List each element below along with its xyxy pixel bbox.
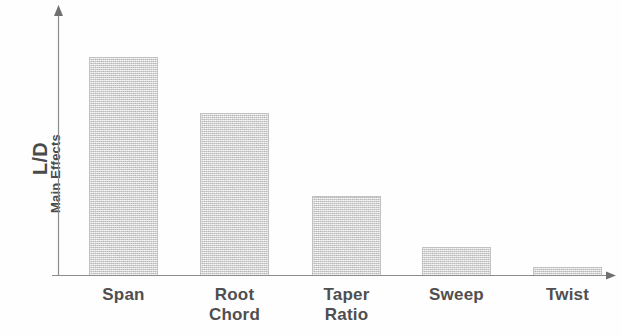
x-label-sweep: Sweep bbox=[422, 285, 491, 305]
bar-span bbox=[89, 57, 158, 275]
x-label-span: Span bbox=[89, 285, 158, 305]
x-label-taper-ratio-line1: Taper bbox=[323, 285, 369, 304]
x-label-root-chord-line1: Root bbox=[215, 285, 255, 304]
x-label-twist: Twist bbox=[533, 285, 602, 305]
bar-chart: L/D Main Effects Span Root Chord Taper bbox=[0, 0, 622, 336]
x-axis-category-labels: Span Root Chord Taper Ratio Sweep Twist bbox=[0, 275, 622, 336]
x-label-taper-ratio-line2: Ratio bbox=[312, 305, 381, 325]
x-label-sweep-line1: Sweep bbox=[429, 285, 484, 304]
bar-root-chord bbox=[200, 113, 269, 275]
x-label-span-line1: Span bbox=[102, 285, 144, 304]
plot-area bbox=[0, 0, 622, 275]
bar-sweep bbox=[422, 247, 491, 275]
x-label-taper-ratio: Taper Ratio bbox=[312, 285, 381, 325]
x-label-root-chord-line2: Chord bbox=[200, 305, 269, 325]
x-label-twist-line1: Twist bbox=[546, 285, 589, 304]
bar-twist bbox=[533, 267, 602, 275]
x-label-root-chord: Root Chord bbox=[200, 285, 269, 325]
bar-taper-ratio bbox=[312, 196, 381, 275]
